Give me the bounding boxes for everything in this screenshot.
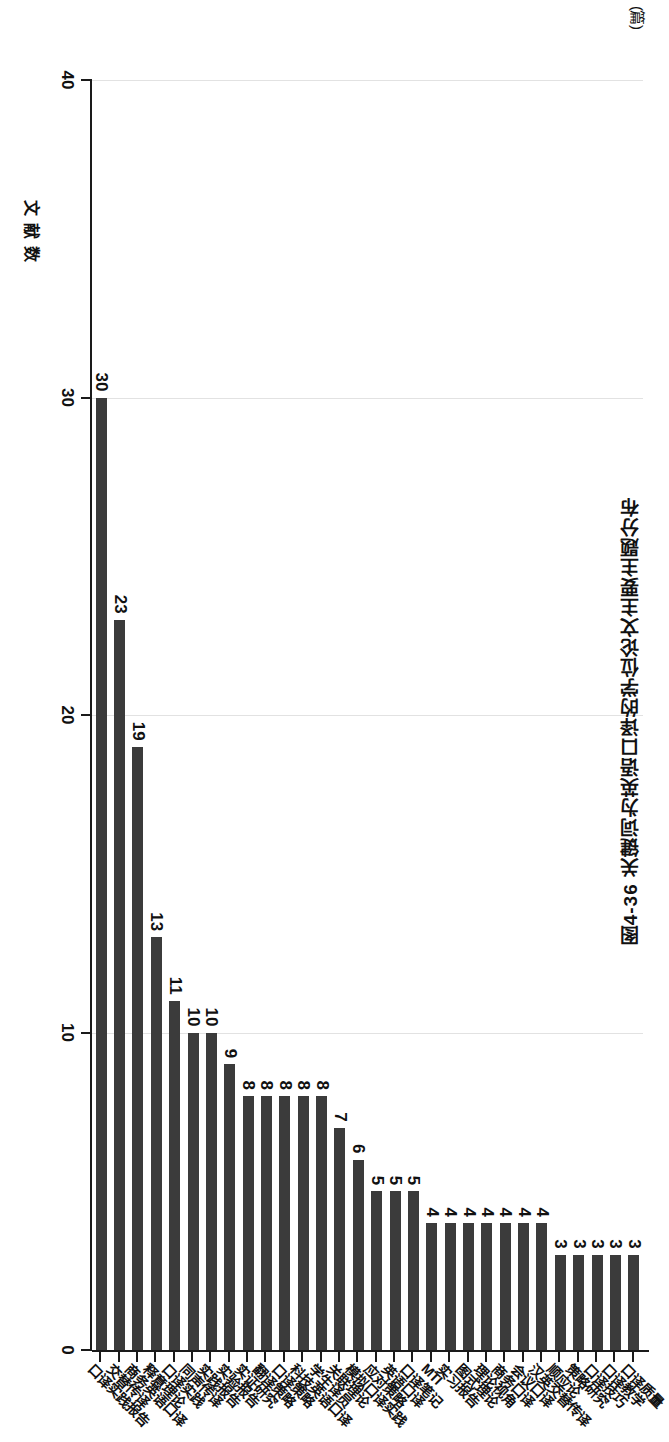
bar <box>555 1255 566 1350</box>
bar-row: 8 <box>316 80 327 1350</box>
plot-area: 3333344444445556788888910101113192330 <box>92 80 643 1350</box>
bar-value-label: 10 <box>201 1008 221 1033</box>
value-tick-mark <box>81 1349 92 1351</box>
bar <box>481 1223 492 1350</box>
bar <box>390 1191 401 1350</box>
bar-row: 4 <box>463 80 474 1350</box>
bar-value-label: 11 <box>165 977 185 1001</box>
bar-value-label: 8 <box>275 1081 295 1096</box>
bar <box>463 1223 474 1350</box>
bar-row: 6 <box>353 80 364 1350</box>
bar-value-label: 4 <box>422 1208 442 1223</box>
value-tick-label: 10 <box>57 1023 77 1042</box>
value-tick-label: 0 <box>57 1345 77 1354</box>
value-tick-mark <box>81 397 92 399</box>
value-tick-label: 40 <box>57 71 77 90</box>
bar <box>224 1064 235 1350</box>
bar-value-label: 3 <box>569 1239 589 1254</box>
bar-row: 4 <box>518 80 529 1350</box>
bar <box>408 1191 419 1350</box>
figure-caption-text: 图4-36 关键词为英语口译的学位论文主要主题分布 <box>617 497 644 945</box>
bar <box>132 747 143 1350</box>
value-tick-label: 30 <box>57 388 77 407</box>
bar-row: 4 <box>481 80 492 1350</box>
bar-row: 4 <box>426 80 437 1350</box>
bar <box>592 1255 603 1350</box>
bar-row: 19 <box>132 80 143 1350</box>
bar-row: 5 <box>390 80 401 1350</box>
bar <box>426 1223 437 1350</box>
bar-row: 8 <box>298 80 309 1350</box>
bar-row: 23 <box>114 80 125 1350</box>
bar-value-label: 8 <box>257 1081 277 1096</box>
value-axis-title: 文献数 <box>21 200 45 269</box>
bar-row: 3 <box>573 80 584 1350</box>
bar-row: 11 <box>169 80 180 1350</box>
value-tick-mark <box>81 79 92 81</box>
bar-value-label: 4 <box>440 1208 460 1223</box>
bar-value-label: 8 <box>238 1081 258 1096</box>
bar <box>536 1223 547 1350</box>
bar-row: 8 <box>261 80 272 1350</box>
value-tick-label: 20 <box>57 706 77 725</box>
bar <box>279 1096 290 1350</box>
bar-value-label: 3 <box>550 1239 570 1254</box>
bar-value-label: 30 <box>91 373 111 398</box>
bar <box>371 1191 382 1350</box>
bar-value-label: 4 <box>495 1208 515 1223</box>
value-axis-line <box>92 1350 649 1352</box>
bar-row: 9 <box>224 80 235 1350</box>
bar-value-label: 4 <box>532 1208 552 1223</box>
bar-row: 4 <box>445 80 456 1350</box>
value-tick-mark <box>81 1032 92 1034</box>
bar <box>316 1096 327 1350</box>
bar <box>298 1096 309 1350</box>
bar-row: 5 <box>408 80 419 1350</box>
bar <box>114 620 125 1350</box>
bar <box>334 1128 345 1350</box>
bar-value-label: 4 <box>477 1208 497 1223</box>
bar <box>169 1001 180 1350</box>
bar-row: 5 <box>371 80 382 1350</box>
bar-row: 10 <box>188 80 199 1350</box>
bar <box>500 1223 511 1350</box>
bar-row: 8 <box>279 80 290 1350</box>
bar-value-label: 8 <box>293 1081 313 1096</box>
value-tick-mark <box>81 714 92 716</box>
bar <box>151 937 162 1350</box>
figure-caption: 图4-36 关键词为英语口译的学位论文主要主题分布 <box>609 0 651 1442</box>
bar-value-label: 9 <box>220 1049 240 1064</box>
bar-row: 3 <box>592 80 603 1350</box>
bar-value-label: 19 <box>128 722 148 747</box>
bar-value-label: 4 <box>514 1208 534 1223</box>
bar-value-label: 6 <box>348 1144 368 1159</box>
bar-row: 30 <box>96 80 107 1350</box>
bar-row: 3 <box>555 80 566 1350</box>
bar-row: 4 <box>536 80 547 1350</box>
bar <box>188 1033 199 1351</box>
bar-row: 10 <box>206 80 217 1350</box>
bar-row: 4 <box>500 80 511 1350</box>
bar <box>96 398 107 1351</box>
bar <box>573 1255 584 1350</box>
bar <box>243 1096 254 1350</box>
bar-value-label: 13 <box>146 912 166 937</box>
bar-row: 7 <box>334 80 345 1350</box>
bar-value-label: 5 <box>367 1176 387 1191</box>
bar-value-label: 7 <box>330 1112 350 1127</box>
bar-row: 13 <box>151 80 162 1350</box>
bar-row: 8 <box>243 80 254 1350</box>
bar-value-label: 5 <box>403 1176 423 1191</box>
bar-value-label: 5 <box>385 1176 405 1191</box>
bar <box>353 1160 364 1351</box>
bar <box>445 1223 456 1350</box>
bar <box>206 1033 217 1351</box>
bar-value-label: 4 <box>459 1208 479 1223</box>
bar-value-label: 8 <box>312 1081 332 1096</box>
bar-value-label: 3 <box>587 1239 607 1254</box>
bar <box>261 1096 272 1350</box>
bar-value-label: 10 <box>183 1008 203 1033</box>
